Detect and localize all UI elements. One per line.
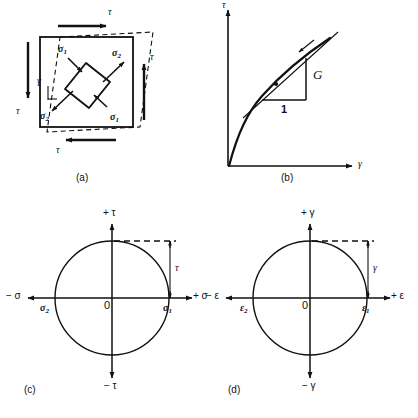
epsilon-subscript: 2 — [244, 307, 248, 315]
panel-d-label-origin: 0 — [302, 300, 308, 311]
panel-d-graphic — [0, 0, 418, 418]
panel-d-label-epsilon1: ε1 — [362, 303, 370, 315]
panel-d-caption: (d) — [228, 384, 240, 395]
panel-d-label-epsilon2: ε2 — [240, 303, 248, 315]
panel-d-label-axis-bottom: − γ — [302, 381, 316, 391]
panel-d-label-axis-top: + γ — [301, 208, 315, 218]
epsilon-subscript: 1 — [366, 307, 370, 315]
panel-d-label-radius-dimension: γ — [373, 263, 377, 273]
panel-d-label-axis-left: − ε — [206, 291, 219, 301]
figure-root: τ τ τ τ γ σ1 σ2 σ2 σ1 (a) — [0, 0, 418, 418]
panel-d-label-axis-right: + ε — [391, 291, 404, 301]
